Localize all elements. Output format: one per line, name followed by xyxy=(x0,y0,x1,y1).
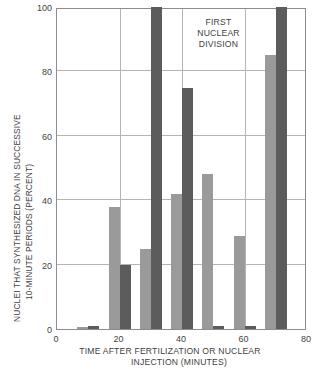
x-axis-title-line-2: INJECTION (MINUTES) xyxy=(30,357,310,368)
x-tick-label: 40 xyxy=(166,334,196,344)
chart-figure: NUCLEI THAT SYNTHESIZED DNA IN SUCCESSIV… xyxy=(0,0,323,375)
bar-light-series-50 xyxy=(202,174,213,329)
bar-dark-series-20 xyxy=(120,265,131,329)
bar-dark-series-40 xyxy=(182,88,193,330)
x-axis-title-line-1: TIME AFTER FERTILIZATION OR NUCLEAR xyxy=(30,346,310,357)
y-tick-label: 100 xyxy=(28,4,52,13)
bar-light-series-40 xyxy=(171,194,182,329)
x-tick-label: 60 xyxy=(229,334,259,344)
x-tick-label: 80 xyxy=(291,334,321,344)
y-tick-label: 20 xyxy=(28,262,52,271)
bar-dark-series-50 xyxy=(213,326,224,329)
x-axis-title: TIME AFTER FERTILIZATION OR NUCLEAR INJE… xyxy=(30,346,310,368)
annotation-line-2: NUCLEAR xyxy=(179,28,259,39)
annotation-first-nuclear-division: FIRSTNUCLEARDIVISION xyxy=(179,17,259,50)
bar-dark-series-10 xyxy=(88,326,99,329)
bar-light-series-30 xyxy=(140,249,151,330)
y-axis-tick-labels: 020406080100 xyxy=(26,0,52,340)
plot-area xyxy=(56,8,306,330)
y-tick-label: 80 xyxy=(28,68,52,77)
bar-light-series-20 xyxy=(109,207,120,329)
bar-light-series-60 xyxy=(234,236,245,329)
bar-light-series-10 xyxy=(77,327,88,329)
gridline-vertical xyxy=(245,9,246,329)
annotation-line-3: DIVISION xyxy=(179,39,259,50)
x-tick-label: 20 xyxy=(104,334,134,344)
bar-dark-series-70 xyxy=(276,7,287,329)
bar-dark-series-60 xyxy=(245,326,256,329)
bar-light-series-70 xyxy=(265,55,276,329)
bar-dark-series-30 xyxy=(151,7,162,329)
x-tick-label: 0 xyxy=(41,334,71,344)
y-axis-title-line-1: NUCLEI THAT SYNTHESIZED DNA IN SUCCESSIV… xyxy=(12,114,22,322)
y-tick-label: 60 xyxy=(28,133,52,142)
annotation-line-1: FIRST xyxy=(179,17,259,28)
y-tick-label: 40 xyxy=(28,197,52,206)
